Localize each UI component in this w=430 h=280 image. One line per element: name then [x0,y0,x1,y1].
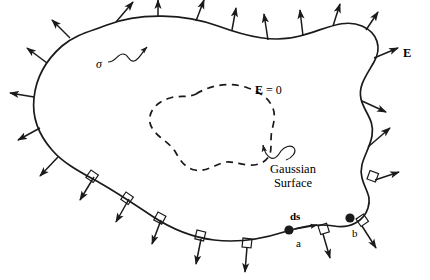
surface-charge-density-label: σ [96,58,102,71]
gaussian-label-line2: Surface [256,177,330,191]
normal-arrow-group [367,171,399,183]
ds-vector-label: ds [290,211,300,223]
sigma-leader-squiggle [108,47,147,62]
normal-arrow-group [195,230,206,264]
normal-arrow-group [242,238,252,272]
e-zero-symbol: E [255,83,263,97]
gaussian-surface-diagram: E E = 0 σ GaussianSurface ds a b [0,0,430,280]
point-a-label: a [296,238,301,250]
electric-field-arrows [10,0,398,176]
normal-arrow-group [356,214,376,248]
point-b-dot [345,213,354,222]
normal-arrow-group [116,192,133,222]
normal-arrow-group [80,170,98,200]
gaussian-surface-label: GaussianSurface [256,163,330,190]
e-zero-rest: = 0 [263,83,282,97]
interior-field-zero-label: E = 0 [255,84,282,97]
normal-arrow-group [318,223,330,258]
gaussian-label-line1: Gaussian [256,163,330,177]
diagram-canvas [0,0,430,280]
point-b-label: b [352,228,358,240]
electric-field-label: E [403,47,411,61]
outer-conductor-surface [34,16,378,241]
point-a-dot [284,225,293,234]
gaussian-surface-dashed-curve [150,85,275,171]
